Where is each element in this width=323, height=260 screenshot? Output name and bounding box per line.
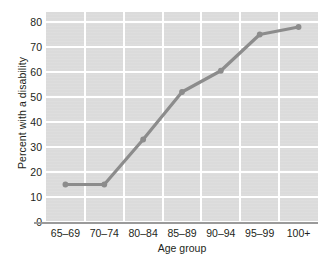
data-point-marker	[63, 182, 69, 188]
plot-area	[46, 12, 318, 222]
x-axis-spine	[34, 222, 318, 224]
data-point-marker	[101, 182, 107, 188]
y-axis-tick-labels: 01020304050607080	[20, 12, 42, 222]
data-point-marker	[296, 24, 302, 30]
data-series-line	[46, 12, 318, 222]
x-tick-label: 100+	[276, 226, 322, 240]
y-tick-label: 40	[20, 115, 42, 129]
x-axis-title: Age group	[46, 241, 318, 255]
data-point-marker	[218, 68, 224, 74]
y-tick-label: 50	[20, 90, 42, 104]
y-tick-label: 30	[20, 140, 42, 154]
data-point-marker	[140, 137, 146, 143]
y-tick-label: 60	[20, 65, 42, 79]
x-axis-tick-labels: 65–6970–7480–8485–8990–9495–99100+	[46, 226, 318, 240]
y-tick-label: 10	[20, 190, 42, 204]
y-tick-label: 20	[20, 165, 42, 179]
series-polyline	[65, 27, 298, 185]
disability-by-age-line-chart: Percent with a disability 01020304050607…	[0, 0, 323, 260]
y-tick-label: 80	[20, 15, 42, 29]
data-point-marker	[257, 32, 263, 38]
data-point-marker	[179, 89, 185, 95]
y-tick-label: 70	[20, 40, 42, 54]
